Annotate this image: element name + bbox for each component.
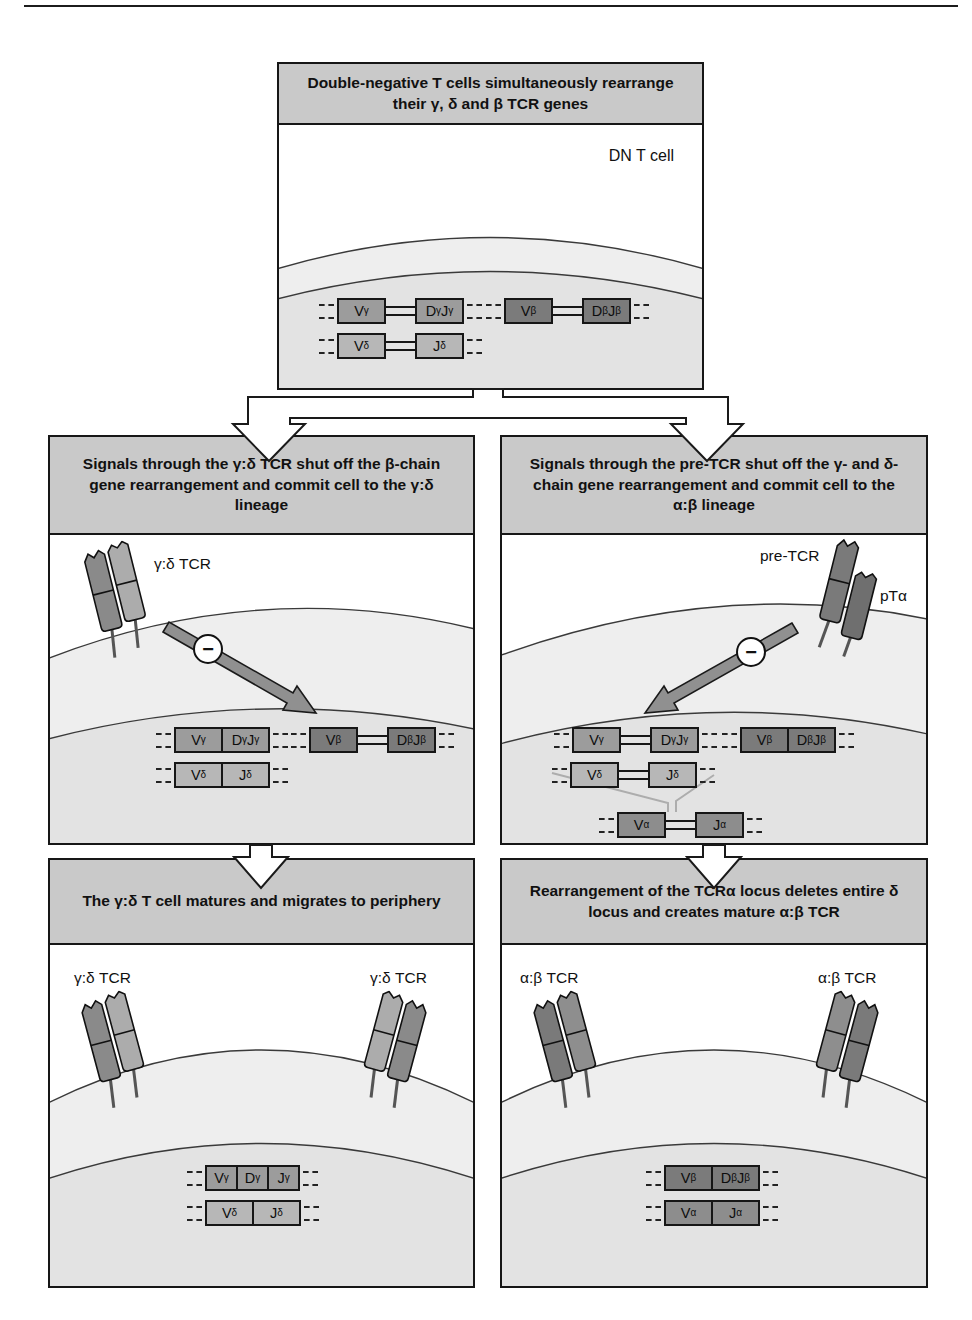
panel-alpha-beta-mature: Rearrangement of the TCRα locus deletes … xyxy=(500,858,928,1288)
gene-box-dj-beta: DβJβ xyxy=(711,1165,760,1191)
gamma-delta-tcr-label: γ:δ TCR xyxy=(370,969,427,987)
gene-box-j-delta: Jδ xyxy=(648,762,697,788)
dna-flank-icon xyxy=(702,733,717,748)
dna-flank-icon xyxy=(156,733,171,748)
dna-flank-icon xyxy=(156,768,171,783)
panel-dn-header: Double-negative T cells simultaneously r… xyxy=(279,64,702,125)
panel-gamma-delta-mature-header: The γ:δ T cell matures and migrates to p… xyxy=(50,860,473,945)
gene-box-v-delta: Vδ xyxy=(570,762,619,788)
gene-box-dj-beta: DβJβ xyxy=(387,727,436,753)
dna-connector xyxy=(358,735,387,745)
nucleus-region xyxy=(279,272,702,389)
panel-gamma-delta-commit: Signals through the γ:δ TCR shut off the… xyxy=(48,435,475,845)
dna-connector xyxy=(621,735,650,745)
dna-flank-icon xyxy=(303,1171,318,1186)
dna-flank-icon xyxy=(187,1206,202,1221)
dna-flank-icon xyxy=(486,304,501,319)
dna-flank-icon xyxy=(839,733,854,748)
page-rule xyxy=(24,5,958,7)
gene-box-v-beta: Vβ xyxy=(309,727,358,753)
gene-box-j-delta: Jδ xyxy=(221,762,270,788)
gene-box-v-beta: Vβ xyxy=(664,1165,713,1191)
dna-flank-icon xyxy=(552,768,567,783)
pre-tcr-label: pre-TCR xyxy=(760,547,819,565)
gene-box-v-alpha: Vα xyxy=(664,1200,713,1226)
panel-gamma-delta-mature: The γ:δ T cell matures and migrates to p… xyxy=(48,858,475,1288)
gene-box-dj-beta: DβJβ xyxy=(582,298,631,324)
panel-gamma-delta-commit-body: − γ:δ TCR Vγ DγJγ Vβ DβJβ xyxy=(50,535,473,843)
gene-row-delta-joined: Vδ Jδ xyxy=(184,1200,322,1226)
gene-row-alpha-joined: Vα Jα xyxy=(643,1200,781,1226)
dna-flank-icon xyxy=(273,768,288,783)
panel-alpha-beta-commit: Signals through the pre-TCR shut off the… xyxy=(500,435,928,845)
gene-box-j-alpha: Jα xyxy=(711,1200,760,1226)
dna-flank-icon xyxy=(722,733,737,748)
gene-row-delta: Vδ Jδ xyxy=(549,762,718,788)
dna-flank-icon xyxy=(291,733,306,748)
panel-dn-body: DN T cell Vγ DγJγ Vβ DβJβ Vδ Jδ xyxy=(279,125,702,388)
gene-box-j-gamma: Jγ xyxy=(267,1165,300,1191)
gene-box-v-gamma: Vγ xyxy=(205,1165,238,1191)
gene-box-v-beta: Vβ xyxy=(740,727,789,753)
dna-connector xyxy=(386,306,415,316)
panel-gamma-delta-commit-header: Signals through the γ:δ TCR shut off the… xyxy=(50,437,473,535)
dn-t-cell-label: DN T cell xyxy=(609,147,674,165)
gene-box-dj-gamma: DγJγ xyxy=(650,727,699,753)
gene-box-v-alpha: Vα xyxy=(617,812,666,838)
gene-row-gamma-joined: Vγ DγJγ xyxy=(153,727,291,753)
gene-box-v-gamma: Vγ xyxy=(572,727,621,753)
dna-flank-icon xyxy=(554,733,569,748)
dna-flank-icon xyxy=(599,818,614,833)
gamma-delta-tcr-label: γ:δ TCR xyxy=(154,555,211,573)
dna-flank-icon xyxy=(763,1171,778,1186)
dna-flank-icon xyxy=(319,339,334,354)
dna-flank-icon xyxy=(646,1206,661,1221)
minus-badge: − xyxy=(193,634,223,664)
gene-box-v-gamma: Vγ xyxy=(174,727,223,753)
panel-dn-t-cell: Double-negative T cells simultaneously r… xyxy=(277,62,704,390)
panel-gamma-delta-mature-body: γ:δ TCR γ:δ TCR Vγ Dγ Jγ Vδ Jδ xyxy=(50,945,473,1286)
panel-alpha-beta-commit-header: Signals through the pre-TCR shut off the… xyxy=(502,437,926,535)
gene-row-beta-joined: Vβ DβJβ xyxy=(643,1165,781,1191)
dna-flank-icon xyxy=(467,304,482,319)
dna-flank-icon xyxy=(763,1206,778,1221)
gene-box-v-delta: Vδ xyxy=(337,333,386,359)
gene-box-dj-gamma: DγJγ xyxy=(221,727,270,753)
gene-row-gamma-joined: Vγ Dγ Jγ xyxy=(184,1165,321,1191)
gene-row-gamma: Vγ DγJγ xyxy=(316,298,485,324)
dna-flank-icon xyxy=(187,1171,202,1186)
gene-box-dj-beta: DβJβ xyxy=(787,727,836,753)
gene-box-v-delta: Vδ xyxy=(205,1200,254,1226)
alpha-beta-tcr-label: α:β TCR xyxy=(818,969,876,987)
gene-row-delta: Vδ Jδ xyxy=(316,333,485,359)
gene-box-v-gamma: Vγ xyxy=(337,298,386,324)
panel-alpha-beta-mature-body: α:β TCR α:β TCR Vβ DβJβ Vα Jα xyxy=(502,945,926,1286)
gene-row-delta-joined: Vδ Jδ xyxy=(153,762,291,788)
dna-flank-icon xyxy=(747,818,762,833)
dna-flank-icon xyxy=(646,1171,661,1186)
dna-connector xyxy=(619,770,648,780)
gene-row-gamma: Vγ DγJγ xyxy=(551,727,720,753)
dna-connector xyxy=(386,341,415,351)
diagram-page: Double-negative T cells simultaneously r… xyxy=(0,0,972,1320)
dna-flank-icon xyxy=(467,339,482,354)
gene-box-j-delta: Jδ xyxy=(252,1200,301,1226)
dna-connector xyxy=(666,820,695,830)
minus-badge: − xyxy=(736,637,766,667)
gene-row-beta: Vβ DβJβ xyxy=(288,727,457,753)
pt-alpha-label: pTα xyxy=(880,587,907,605)
dna-flank-icon xyxy=(304,1206,319,1221)
gamma-delta-tcr-label: γ:δ TCR xyxy=(74,969,131,987)
dna-flank-icon xyxy=(700,768,715,783)
gene-row-beta: Vβ DβJβ xyxy=(483,298,652,324)
gene-box-v-delta: Vδ xyxy=(174,762,223,788)
gene-box-dj-gamma: DγJγ xyxy=(415,298,464,324)
dna-flank-icon xyxy=(439,733,454,748)
gene-row-alpha: Vα Jα xyxy=(596,812,765,838)
gene-box-d-gamma: Dγ xyxy=(236,1165,269,1191)
panel-alpha-beta-commit-body: − pre-TCR pTα Vγ DγJγ Vβ DβJβ xyxy=(502,535,926,843)
alpha-beta-tcr-label: α:β TCR xyxy=(520,969,578,987)
gene-box-v-beta: Vβ xyxy=(504,298,553,324)
dna-connector xyxy=(553,306,582,316)
gene-row-beta-joined: Vβ DβJβ xyxy=(719,727,857,753)
